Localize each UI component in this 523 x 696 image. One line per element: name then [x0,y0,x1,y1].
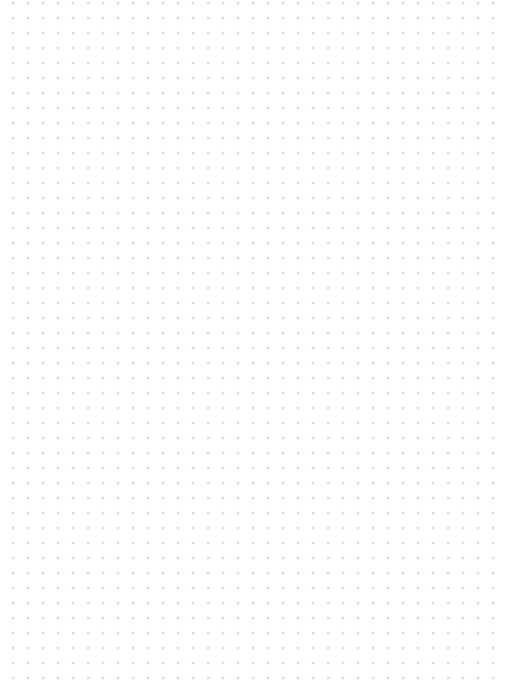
dot-grid-page[interactable] [0,0,523,696]
page-content-layer [0,0,523,696]
